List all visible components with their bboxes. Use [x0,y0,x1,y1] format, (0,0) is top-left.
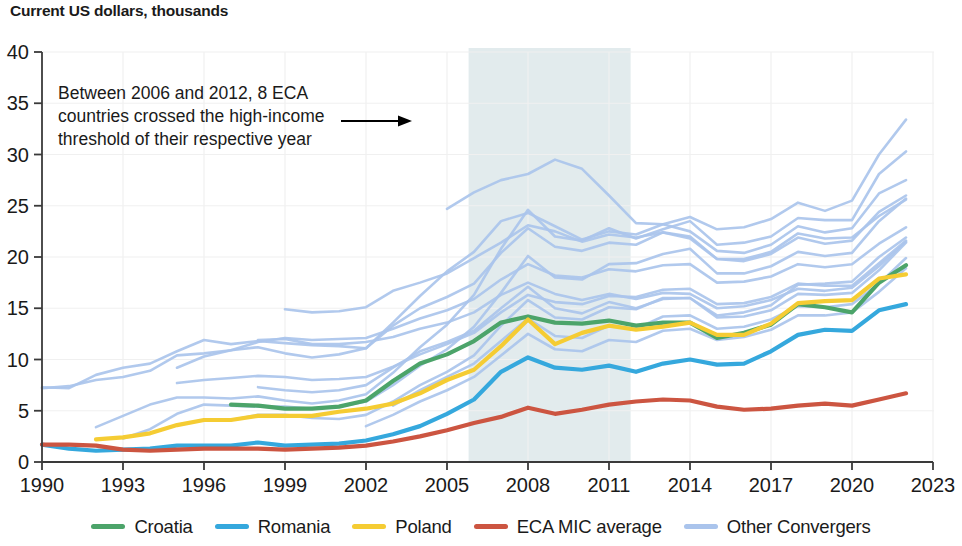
annotation-line: countries crossed the high-income [58,106,325,126]
legend-swatch-icon [684,524,718,529]
y-axis-tick-label: 25 [7,195,29,217]
y-axis-tick-label: 15 [7,297,29,319]
legend-label: ECA MIC average [517,516,662,538]
y-axis-tick-label: 10 [7,349,29,371]
x-axis-tick-label: 2014 [668,474,713,496]
x-axis-tick-label: 2005 [425,474,470,496]
y-axis-tick-label: 5 [18,400,29,422]
legend-item[interactable]: ECA MIC average [474,516,662,538]
x-axis-tick-label: 2008 [506,474,551,496]
chart-page: Current US dollars, thousands 1990199319… [0,0,962,546]
legend-label: Other Convergers [727,516,871,538]
x-axis-tick-label: 1990 [20,474,65,496]
legend-label: Croatia [134,516,192,538]
legend-swatch-icon [215,524,249,529]
annotation-line: threshold of their respective year [58,129,312,149]
legend-label: Romania [258,516,331,538]
y-axis-tick-label: 20 [7,246,29,268]
x-axis-tick-label: 1993 [101,474,146,496]
legend-swatch-icon [474,524,508,529]
x-axis-tick-label: 2011 [587,474,630,496]
chart-plot-area: 1990199319961999200220052008201120142017… [0,0,962,505]
legend-item[interactable]: Croatia [91,516,192,538]
x-axis-tick-label: 1999 [263,474,308,496]
chart-legend: CroatiaRomaniaPolandECA MIC averageOther… [0,507,962,546]
y-axis-tick-label: 30 [7,144,29,166]
x-axis-tick-label: 2002 [344,474,389,496]
y-axis-tick-label: 0 [18,451,29,473]
chart-annotation: Between 2006 and 2012, 8 ECAcountries cr… [58,83,325,149]
x-axis-tick-label: 1996 [182,474,227,496]
y-axis-tick-label: 35 [7,92,29,114]
line-chart: 1990199319961999200220052008201120142017… [0,0,962,505]
legend-item[interactable]: Poland [352,516,451,538]
y-axis-tick-label: 40 [7,41,29,63]
x-axis-tick-label: 2020 [830,474,875,496]
legend-swatch-icon [352,524,386,529]
x-axis-tick-label: 2023 [911,474,956,496]
arrow-head [398,116,412,127]
legend-label: Poland [395,516,451,538]
legend-swatch-icon [91,524,125,529]
annotation-line: Between 2006 and 2012, 8 ECA [58,83,308,103]
legend-item[interactable]: Romania [215,516,331,538]
highlight-band [469,48,631,462]
legend-item[interactable]: Other Convergers [684,516,871,538]
x-axis-tick-label: 2017 [749,474,794,496]
arrow-right-icon [341,116,412,127]
